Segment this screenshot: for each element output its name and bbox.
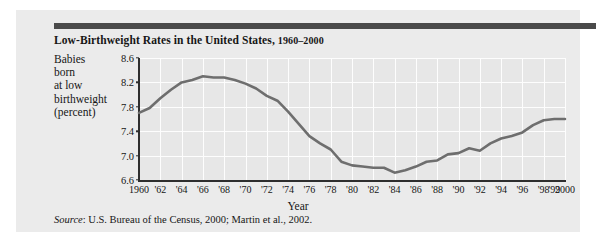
y-axis-label-line: at low — [54, 79, 124, 92]
x-tick-label: '86 — [410, 184, 422, 195]
source-note: Source: U.S. Bureau of the Census, 2000;… — [54, 214, 312, 225]
x-tick-label: '96 — [516, 184, 528, 195]
x-tick-label: '82 — [367, 184, 379, 195]
x-tick-label: '88 — [431, 184, 443, 195]
x-tick-label: '92 — [474, 184, 486, 195]
x-axis-line — [138, 180, 566, 182]
x-tick-label: '94 — [495, 184, 507, 195]
chart-title: Low-Birthweight Rates in the United Stat… — [54, 34, 324, 46]
chart-title-text: Low-Birthweight Rates in the United Stat… — [54, 34, 278, 46]
x-tick-label: '70 — [240, 184, 252, 195]
y-axis-label-line: birthweight — [54, 93, 124, 106]
x-tick-label: '68 — [218, 184, 230, 195]
y-tick-label: 7.4 — [121, 126, 134, 137]
x-tick-label: '66 — [197, 184, 209, 195]
source-text: : U.S. Bureau of the Census, 2000; Marti… — [83, 214, 312, 225]
y-axis-label-line: Babies — [54, 53, 124, 66]
x-tick-label: '74 — [282, 184, 294, 195]
data-series-line — [139, 58, 565, 180]
x-tick-label: 2000 — [555, 184, 575, 195]
y-tick-label: 8.6 — [121, 53, 134, 64]
figure-card: Low-Birthweight Rates in the United Stat… — [16, 10, 580, 232]
accent-bar — [54, 23, 596, 29]
x-tick-label: '90 — [453, 184, 465, 195]
y-axis-label: Babies born at low birthweight (percent) — [54, 53, 124, 119]
x-tick-label: 1960 — [129, 184, 149, 195]
x-tick-label: '62 — [154, 184, 166, 195]
chart-title-years: 1960–2000 — [278, 35, 324, 46]
x-tick-label: '84 — [389, 184, 401, 195]
x-tick-label: '78 — [325, 184, 337, 195]
x-tick-label: '72 — [261, 184, 273, 195]
y-tick-label: 7.8 — [121, 101, 134, 112]
plot-area: 8.68.27.87.47.06.6 1960'62'64'66'68'70'7… — [139, 58, 565, 180]
y-axis-label-line: born — [54, 66, 124, 79]
x-tick-label: '64 — [176, 184, 188, 195]
x-tick-label: '76 — [303, 184, 315, 195]
y-axis-label-line: (percent) — [54, 106, 124, 119]
y-tick-label: 7.0 — [121, 150, 134, 161]
y-tick-label: 8.2 — [121, 77, 134, 88]
source-label: Source — [54, 214, 83, 225]
x-axis-label: Year — [16, 200, 580, 212]
x-tick-label: '80 — [346, 184, 358, 195]
